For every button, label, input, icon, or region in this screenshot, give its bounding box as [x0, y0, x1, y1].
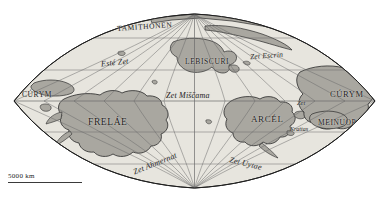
islet-4 [206, 120, 212, 124]
land-islet-frelae-west [40, 104, 51, 111]
scale-bar-rule [8, 182, 82, 183]
scale-bar-label: 5000 km [8, 172, 82, 181]
scale-bar: 5000 km [8, 172, 82, 183]
map-figure: CÚRYM TAMITHONEN LEBISCURI FRELÁE ARCÉL … [0, 0, 389, 202]
land-krattas-c [287, 131, 294, 136]
land-meinuop [310, 111, 348, 129]
land-northeast-cap [330, 40, 368, 54]
